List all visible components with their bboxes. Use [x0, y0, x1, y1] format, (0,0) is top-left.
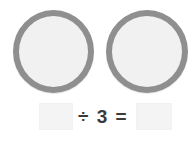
dividend-input-box[interactable]: [39, 103, 73, 130]
quotient-input-box[interactable]: [136, 103, 172, 130]
group-circles-row: [0, 0, 196, 96]
division-worksheet: ÷ 3 =: [0, 0, 196, 144]
division-equation-row: ÷ 3 =: [0, 99, 196, 144]
equation-operator-text: ÷ 3 =: [76, 103, 130, 130]
group-circle-left[interactable]: [13, 10, 94, 93]
group-circle-right[interactable]: [106, 10, 188, 93]
group-circle-right-contents: [112, 16, 182, 87]
group-circle-left-contents: [19, 16, 88, 87]
